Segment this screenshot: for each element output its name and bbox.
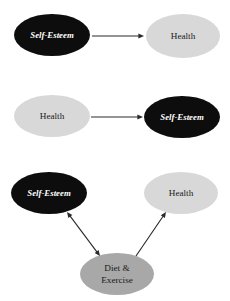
node-health-panel1[interactable]: Health [146,14,220,58]
node-label-diet-exercise-line2: Exercise [101,275,133,285]
arrow-head-end [161,212,166,218]
node-diet-exercise-panel3[interactable]: Diet & Exercise [80,253,154,295]
node-self-esteem-panel3[interactable]: Self-Esteem [11,172,87,214]
arrow-head-end [137,115,143,120]
panel-2: Health Self-Esteem [14,95,220,138]
connector-line [136,215,164,256]
node-label-self-esteem: Self-Esteem [27,188,71,198]
node-self-esteem-panel2[interactable]: Self-Esteem [144,96,220,138]
arrow-head-end [138,34,144,39]
arrow-self-esteem-diet-exercise-bidirectional [67,212,100,256]
node-label-health: Health [40,111,65,121]
diagram-canvas: Self-Esteem Health Health Self-Esteem [0,0,230,301]
node-label-health: Health [169,188,194,198]
node-health-panel3[interactable]: Health [144,172,218,214]
arrow-health-to-self-esteem [91,115,143,120]
causal-model-diagram: Self-Esteem Health Health Self-Esteem [0,0,230,301]
panel-3: Self-Esteem Health Diet & Exercise [11,172,218,295]
arrow-diet-exercise-to-health [136,212,166,256]
node-label-self-esteem: Self-Esteem [30,30,74,40]
node-label-health: Health [171,31,196,41]
arrow-head-start [67,212,72,218]
node-self-esteem-panel1[interactable]: Self-Esteem [14,14,90,56]
node-label-self-esteem: Self-Esteem [160,112,204,122]
panel-1: Self-Esteem Health [14,14,220,58]
node-health-panel2[interactable]: Health [14,95,90,137]
arrow-head-end [95,250,100,256]
node-label-diet-exercise-line1: Diet & [104,263,129,273]
connector-line [69,214,98,253]
arrow-self-esteem-to-health [92,34,144,39]
